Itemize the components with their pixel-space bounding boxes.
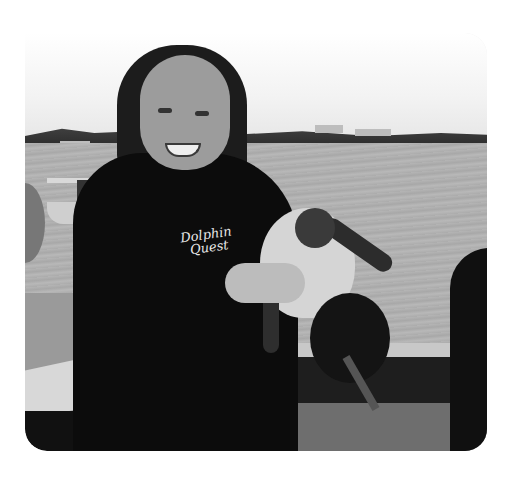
eye-right	[195, 111, 209, 116]
hand	[225, 263, 305, 303]
house	[315, 125, 343, 133]
house	[355, 129, 391, 136]
turtle-head	[295, 208, 335, 248]
bystander-right	[450, 248, 487, 451]
photo: Dolphin Quest	[25, 33, 487, 451]
sky	[25, 33, 487, 143]
eye-left	[158, 108, 172, 113]
